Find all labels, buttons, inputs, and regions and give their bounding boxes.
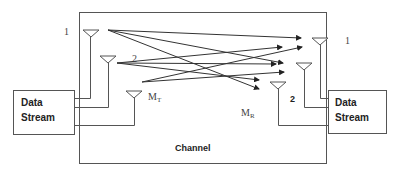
svg-text:T: T <box>157 96 162 104</box>
transmitter-data-stream-block: Data Stream <box>14 91 75 135</box>
rx-block-label-line1: Data <box>335 97 357 108</box>
tx-antenna-1-label: 1 <box>64 26 69 37</box>
svg-text:M: M <box>241 107 250 118</box>
svg-text:M: M <box>148 91 157 102</box>
rx-antenna-1-label: 1 <box>345 35 350 46</box>
tx-antenna-2-label: 2 <box>132 53 137 64</box>
mimo-diagram: Channel Data Stream 1 2 M T Data Stream … <box>0 0 400 173</box>
channel-box <box>80 13 327 164</box>
rx-block-label-line2: Stream <box>335 112 369 123</box>
tx-block-label-line1: Data <box>21 97 43 108</box>
svg-text:R: R <box>250 112 255 120</box>
receiver-data-stream-block: Data Stream <box>329 91 387 134</box>
tx-block-label-line2: Stream <box>21 112 55 123</box>
channel-label: Channel <box>175 143 211 153</box>
rx-antenna-2-label: 2 <box>290 94 295 104</box>
